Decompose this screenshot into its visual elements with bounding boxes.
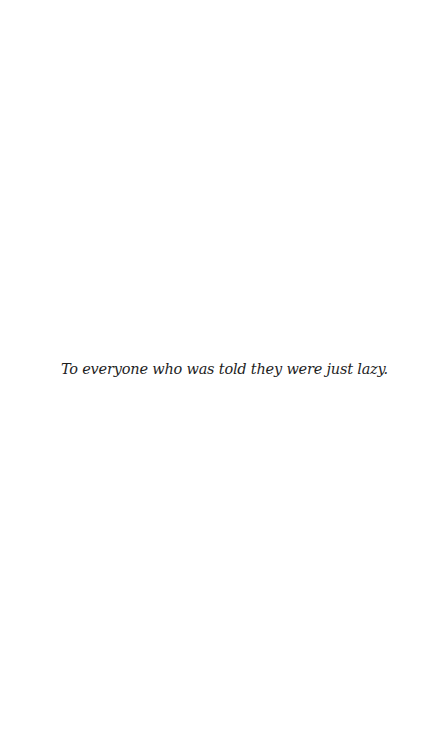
dedication-text: To everyone who was told they were just … — [0, 359, 445, 379]
dedication-page: To everyone who was told they were just … — [0, 0, 445, 745]
